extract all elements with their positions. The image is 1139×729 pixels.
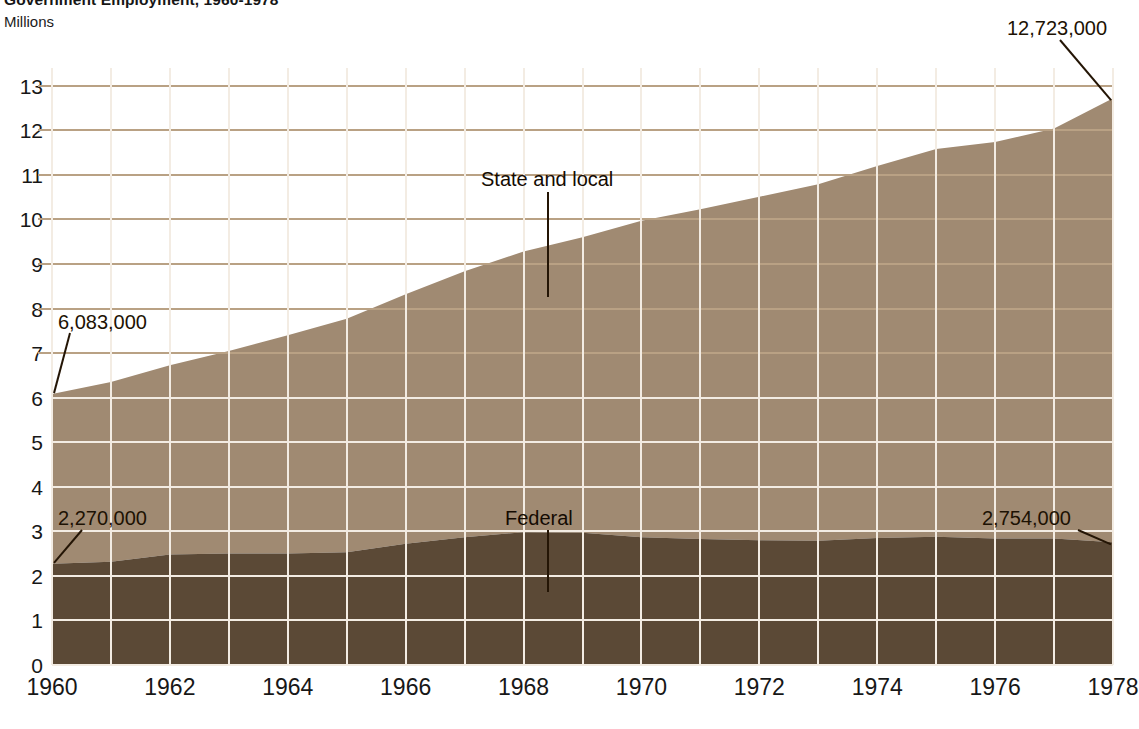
y-tick-label-9: 9	[3, 254, 43, 275]
y-tick-label-6: 6	[3, 387, 43, 408]
y-tick-label-4: 4	[3, 476, 43, 497]
y-tick-label-0: 0	[3, 655, 43, 676]
tick-mark-y-7	[38, 352, 52, 354]
y-tick-label-13: 13	[3, 75, 43, 96]
y-tick-label-10: 10	[3, 209, 43, 230]
x-tick-label-1978: 1978	[1087, 676, 1138, 699]
y-tick-label-2: 2	[3, 565, 43, 586]
tick-mark-y-8	[38, 308, 52, 310]
tick-mark-y-13	[38, 85, 52, 87]
x-tick-label-1970: 1970	[616, 676, 667, 699]
y-tick-label-5: 5	[3, 432, 43, 453]
page-title: Government Employment, 1960-1978	[4, 0, 279, 9]
tick-mark-y-9	[38, 263, 52, 265]
data-label-end-total: 12,723,000	[1007, 18, 1107, 38]
chart-plot-area	[52, 68, 1113, 665]
y-tick-label-11: 11	[3, 164, 43, 185]
x-tick-label-1960: 1960	[26, 676, 77, 699]
y-tick-label-8: 8	[3, 298, 43, 319]
x-tick-label-1962: 1962	[144, 676, 195, 699]
x-tick-label-1976: 1976	[970, 676, 1021, 699]
x-tick-label-1964: 1964	[262, 676, 313, 699]
x-tick-label-1972: 1972	[734, 676, 785, 699]
y-tick-label-7: 7	[3, 343, 43, 364]
stacked-area-series	[52, 68, 1113, 665]
y-tick-label-3: 3	[3, 521, 43, 542]
x-tick-label-1974: 1974	[852, 676, 903, 699]
tick-mark-y-11	[38, 174, 52, 176]
y-tick-label-12: 12	[3, 120, 43, 141]
x-tick-label-1966: 1966	[380, 676, 431, 699]
tick-mark-y-12	[38, 129, 52, 131]
y-axis-caption: Millions	[4, 13, 54, 30]
area-state-local	[52, 98, 1113, 564]
x-tick-label-1968: 1968	[498, 676, 549, 699]
tick-mark-y-10	[38, 218, 52, 220]
y-tick-label-1: 1	[3, 610, 43, 631]
